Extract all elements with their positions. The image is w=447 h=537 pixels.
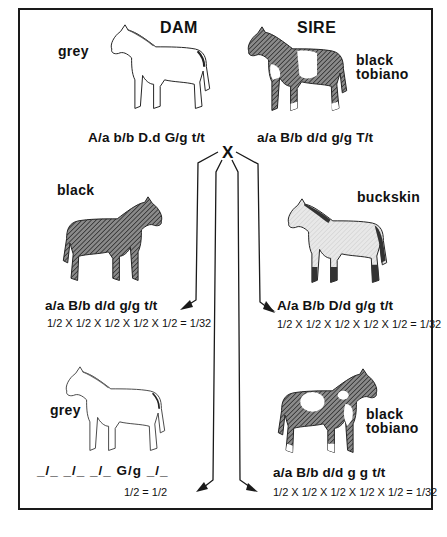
- horse-spotted-icon: [275, 362, 385, 456]
- offspring-grey-probability: 1/2 = 1/2: [124, 486, 167, 498]
- horse-solid-icon: [60, 190, 170, 284]
- offspring-grey-genotype: _/_ _/_ _/_ G/g _/_: [37, 463, 169, 478]
- offspring-black-tobiano-genotype: a/a B/b d/d g g t/t: [273, 465, 386, 480]
- offspring-black-genotype: a/a B/b d/d g/g t/t: [45, 298, 158, 313]
- offspring-black-tobiano-probability: 1/2 X 1/2 X 1/2 X 1/2 X 1/2 = 1/32: [273, 486, 437, 498]
- offspring-buckskin-probability: 1/2 X 1/2 X 1/2 X 1/2 X 1/2 = 1/32: [277, 318, 441, 330]
- horse-outline-icon: [58, 360, 168, 454]
- horse-buckskin-icon: [280, 192, 390, 286]
- offspring-buckskin-genotype: A/a B/b D/d g/g t/t: [277, 298, 393, 313]
- offspring-black-probability: 1/2 X 1/2 X 1/2 X 1/2 X 1/2 = 1/32: [47, 317, 211, 329]
